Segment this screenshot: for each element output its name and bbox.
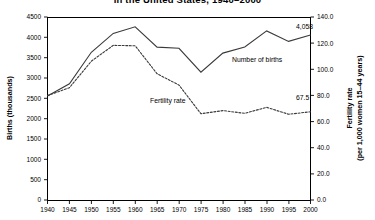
right-tick-label: 120.0 (317, 40, 334, 47)
right-tick-label: 0.0 (317, 196, 326, 203)
x-tick-group: 1980 (216, 200, 231, 213)
left-tick-label: 4500 (27, 13, 42, 20)
left-tick-group: 0 (37, 196, 47, 203)
right-axis-ticks: 0.0 20.0 40.0 60.0 80.0 100.0 120.0 140.… (311, 13, 334, 203)
right-tick-label: 40.0 (317, 144, 330, 151)
x-tick-group: 1995 (282, 200, 297, 213)
right-tick-group: 100.0 (311, 66, 334, 73)
right-tick-label: 80.0 (317, 92, 330, 99)
left-tick-label: 1500 (27, 135, 42, 142)
left-tick-group: 4000 (27, 34, 48, 41)
left-tick-group: 3000 (27, 74, 48, 81)
left-tick-label: 1000 (27, 156, 42, 163)
right-tick-label: 100.0 (317, 66, 334, 73)
left-tick-label: 0 (37, 196, 41, 203)
x-tick-label: 1985 (238, 206, 253, 213)
x-tick-label: 2000 (303, 206, 318, 213)
left-axis-ticks: 0 500 1000 1500 2000 2500 3000 3500 4000… (27, 13, 48, 203)
x-tick-label: 1990 (260, 206, 275, 213)
left-tick-label: 3500 (27, 54, 42, 61)
left-tick-group: 4500 (27, 13, 48, 20)
x-tick-group: 1990 (260, 200, 275, 213)
x-tick-group: 1955 (106, 200, 121, 213)
right-tick-group: 20.0 (311, 170, 331, 177)
x-tick-group: 1970 (172, 200, 187, 213)
left-tick-label: 2500 (27, 95, 42, 102)
left-tick-group: 2000 (27, 115, 48, 122)
x-tick-label: 1980 (216, 206, 231, 213)
x-tick-label: 1940 (40, 206, 55, 213)
right-tick-group: 140.0 (311, 13, 334, 20)
right-tick-group: 0.0 (311, 196, 327, 203)
annotation-fertility-rate: Fertility rate (150, 97, 186, 105)
right-tick-group: 120.0 (311, 40, 334, 47)
left-tick-label: 3000 (27, 74, 42, 81)
right-tick-group: 40.0 (311, 144, 331, 151)
x-tick-label: 1960 (128, 206, 143, 213)
x-tick-label: 1965 (150, 206, 165, 213)
x-tick-group: 1975 (194, 200, 209, 213)
x-tick-group: 1945 (62, 200, 77, 213)
x-tick-group: 1960 (128, 200, 143, 213)
chart-canvas: 0 500 1000 1500 2000 2500 3000 3500 4000… (0, 0, 375, 220)
x-tick-label: 1995 (282, 206, 297, 213)
x-tick-label: 1950 (84, 206, 99, 213)
right-tick-group: 60.0 (311, 118, 331, 125)
value-label-fertility-2000: 67.5 (296, 94, 309, 101)
x-tick-group: 2000 (303, 200, 318, 213)
x-tick-group: 1965 (150, 200, 165, 213)
left-tick-group: 1500 (27, 135, 48, 142)
left-tick-label: 4000 (27, 34, 42, 41)
right-tick-label: 140.0 (317, 13, 334, 20)
x-tick-group: 1940 (40, 200, 55, 213)
right-axis-title-line2: (per 1,000 women 15–44 years) (355, 55, 364, 161)
left-tick-group: 1000 (27, 156, 48, 163)
right-axis-title-line1: Fertility rate (345, 87, 354, 128)
right-tick-label: 20.0 (317, 170, 330, 177)
left-tick-group: 500 (30, 176, 47, 183)
x-tick-label: 1975 (194, 206, 209, 213)
left-tick-label: 500 (30, 176, 41, 183)
x-tick-label: 1970 (172, 206, 187, 213)
right-tick-group: 80.0 (311, 92, 331, 99)
chart-screenshot: in the United States, 1940–2000 0 500 10… (0, 0, 375, 220)
right-tick-label: 60.0 (317, 118, 330, 125)
left-tick-group: 3500 (27, 54, 48, 61)
left-axis-title: Births (thousands) (5, 75, 14, 139)
left-tick-label: 2000 (27, 115, 42, 122)
x-tick-label: 1955 (106, 206, 121, 213)
x-tick-group: 1950 (84, 200, 99, 213)
annotation-number-of-births: Number of births (232, 56, 283, 63)
x-tick-group: 1985 (238, 200, 253, 213)
value-label-births-2000: 4,058 (296, 23, 313, 30)
x-tick-label: 1945 (62, 206, 77, 213)
left-tick-group: 2500 (27, 95, 48, 102)
x-axis-ticks: 1940 1945 1950 1955 1960 1965 1970 1975 … (40, 200, 318, 213)
